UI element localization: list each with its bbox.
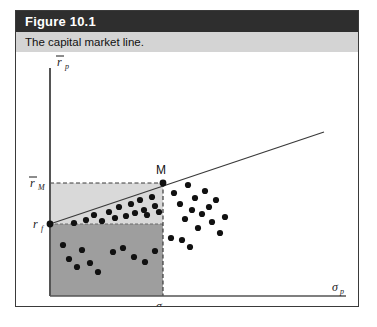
y-tick-riskfree-label-main: r — [33, 217, 38, 231]
market-portfolio-label: M — [156, 163, 166, 177]
y-tick-market-label-sub: M — [37, 183, 46, 192]
figure-caption-text: The capital market line. — [25, 35, 144, 49]
x-tick-market-label-main: σ — [156, 299, 163, 306]
y-tick-market-label-main: r — [30, 176, 35, 190]
capital-market-line — [50, 132, 324, 224]
data-point — [144, 212, 150, 218]
data-point — [106, 209, 112, 215]
data-point — [95, 269, 101, 275]
figure-number-label: Figure 10.1 — [25, 14, 96, 29]
data-point — [168, 235, 174, 241]
x-axis-label-main: σ — [332, 280, 339, 294]
data-point — [206, 204, 212, 210]
data-point — [142, 259, 148, 265]
market-portfolio-M — [160, 180, 167, 187]
y-tick-riskfree-label-sub: f — [41, 224, 45, 233]
data-point — [187, 244, 193, 250]
capital-market-line-chart: r p σ p r M r f σ M M — [16, 52, 358, 306]
data-point — [213, 197, 219, 203]
data-point — [99, 218, 105, 224]
data-point — [110, 249, 116, 255]
data-point — [179, 237, 185, 243]
data-point — [199, 211, 205, 217]
data-point — [128, 201, 134, 207]
data-point — [202, 188, 208, 194]
data-point — [156, 209, 162, 215]
data-point — [189, 207, 195, 213]
data-point — [195, 225, 201, 231]
data-point — [112, 215, 118, 221]
data-point — [177, 201, 183, 207]
plot-area: r p σ p r M r f σ M M — [16, 52, 358, 306]
data-point — [131, 254, 137, 260]
figure-container: Figure 10.1 The capital market line. — [15, 10, 359, 307]
data-point — [120, 245, 126, 251]
data-point — [149, 194, 155, 200]
data-point — [132, 210, 138, 216]
data-point — [209, 219, 215, 225]
data-point — [217, 230, 223, 236]
capital-market-line — [50, 132, 324, 224]
figure-root: Figure 10.1 The capital market line. — [0, 0, 377, 327]
data-point — [192, 195, 198, 201]
data-point — [116, 204, 122, 210]
data-point — [182, 216, 188, 222]
x-axis-label-sub: p — [339, 287, 344, 296]
data-point — [66, 256, 72, 262]
data-point — [152, 203, 158, 209]
data-point — [87, 260, 93, 266]
data-point — [91, 212, 97, 218]
data-point — [185, 182, 191, 188]
data-point — [123, 213, 129, 219]
figure-caption-bar: The capital market line. — [16, 32, 358, 52]
y-axis-label-sub: p — [64, 62, 69, 71]
data-point — [171, 190, 177, 196]
data-point — [60, 242, 66, 248]
data-point — [222, 214, 228, 220]
y-axis-label-main: r — [57, 55, 62, 69]
data-point — [152, 248, 158, 254]
data-point — [71, 220, 77, 226]
data-point — [83, 217, 89, 223]
data-point — [79, 247, 85, 253]
figure-header-bar: Figure 10.1 — [16, 11, 358, 32]
shaded-regions — [50, 183, 163, 296]
risk-free-point — [47, 221, 54, 228]
data-point — [137, 197, 143, 203]
data-point — [74, 264, 80, 270]
